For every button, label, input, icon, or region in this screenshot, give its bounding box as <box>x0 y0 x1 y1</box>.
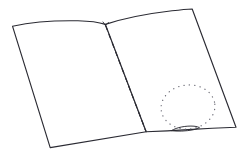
line-drawing-svg <box>0 0 244 156</box>
drawing-canvas <box>0 0 244 156</box>
